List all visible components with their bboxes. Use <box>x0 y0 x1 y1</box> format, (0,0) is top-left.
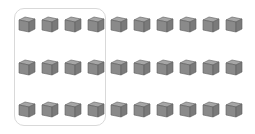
cube-icon <box>156 100 174 118</box>
cube-icon <box>64 58 82 76</box>
cube-icon <box>110 15 128 33</box>
cube-icon <box>179 15 197 33</box>
cube-icon <box>133 58 151 76</box>
cube-icon <box>18 100 36 118</box>
cube-icon <box>110 100 128 118</box>
cube-icon <box>87 100 105 118</box>
cube-icon <box>41 15 59 33</box>
cube-icon <box>156 58 174 76</box>
cube-icon <box>202 15 220 33</box>
cube-icon <box>225 58 243 76</box>
cube-icon <box>179 58 197 76</box>
cube-icon <box>156 15 174 33</box>
cube-icon <box>18 15 36 33</box>
cube-icon <box>202 58 220 76</box>
cube-icon <box>202 100 220 118</box>
cube-icon <box>18 58 36 76</box>
cube-icon <box>133 100 151 118</box>
cube-icon <box>87 15 105 33</box>
cube-icon <box>133 15 151 33</box>
cube-icon <box>225 15 243 33</box>
cube-icon <box>64 15 82 33</box>
cube-icon <box>179 100 197 118</box>
cube-icon <box>87 58 105 76</box>
cube-icon <box>110 58 128 76</box>
cube-icon <box>64 100 82 118</box>
cube-icon <box>225 100 243 118</box>
cube-icon <box>41 58 59 76</box>
cube-icon <box>41 100 59 118</box>
